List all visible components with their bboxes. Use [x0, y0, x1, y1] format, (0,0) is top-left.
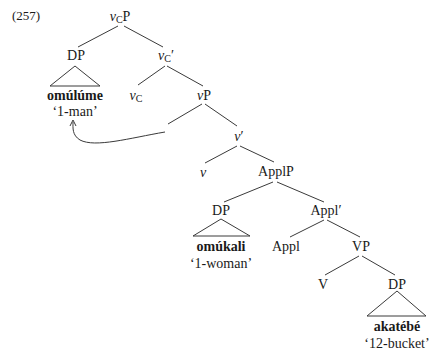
branch-vcbar-vc [138, 66, 165, 85]
branch-vbar-v [205, 146, 237, 163]
triangle-subject [50, 66, 100, 86]
example-number: (257) [12, 8, 40, 24]
branch-vcp-dp [78, 26, 118, 47]
node-dp-object: DP [388, 277, 406, 293]
node-vp: VP [352, 239, 370, 255]
node-vbar: v′ [234, 129, 243, 145]
movement-arrow-path [73, 122, 165, 143]
node-vcbar: vC′ [158, 48, 174, 67]
node-applp: ApplP [258, 164, 294, 180]
triangle-object [367, 291, 426, 316]
triangle-applied [193, 219, 250, 236]
gloss-applied: ‘1-woman’ [190, 256, 252, 272]
node-vp-little: vP [197, 88, 211, 104]
node-vc: vC [130, 88, 143, 107]
node-V: V [318, 277, 328, 293]
branch-vp-vbar [205, 104, 237, 126]
word-object: akatébé [374, 319, 421, 335]
branch-vcbar-vp [167, 66, 203, 86]
branch-applp-applbar [277, 182, 324, 202]
gloss-subject: ‘1-man’ [52, 104, 97, 120]
node-v: v [200, 165, 206, 181]
node-applbar: Appl′ [310, 203, 341, 219]
branch-vp-spec [168, 104, 202, 124]
branch-vp-dp [362, 256, 395, 275]
word-applied: omúkali [196, 239, 245, 255]
node-vcp: vCP [110, 9, 131, 28]
branch-vbar-applp [240, 146, 274, 162]
node-dp-subject: DP [67, 48, 85, 64]
branch-applbar-appl [290, 220, 324, 237]
word-subject: omúlúme [47, 88, 103, 104]
branch-vp-v [325, 256, 359, 275]
branch-applp-dp [224, 182, 273, 202]
tree-lines [0, 0, 437, 360]
branch-applbar-vp [327, 220, 360, 237]
branch-vcp-vcbar [124, 26, 163, 47]
node-appl: Appl [272, 239, 300, 255]
node-dp-applied: DP [212, 203, 230, 219]
gloss-object: ‘12-bucket’ [364, 336, 429, 352]
